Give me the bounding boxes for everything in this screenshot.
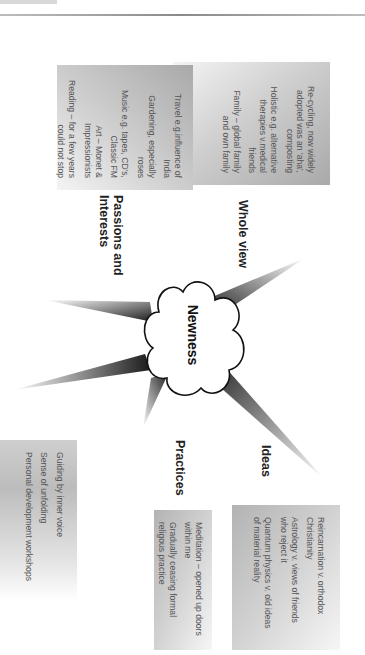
ideas-item: Reincarnation v. orthodox Christianity: [305, 517, 326, 638]
practices-box: Meditation – opened up doors within me G…: [154, 510, 212, 650]
whole-view-item: Re-cycling, now widely adopted was an 'a…: [284, 74, 316, 173]
passions-item: Art – Monet & Impressionists: [82, 77, 103, 178]
whole-view-label: Whole view: [236, 200, 250, 268]
spoke-practices: [143, 372, 169, 428]
practices-label: Practices: [173, 440, 187, 496]
self-item: Guiding by inner voice: [54, 452, 65, 588]
whole-view-item: Family – global family and own family: [220, 74, 241, 173]
self-box: Guiding by inner voice Sense of unfoldin…: [0, 440, 77, 600]
passions-box: Travel e.g.influence of India Gardening,…: [57, 65, 193, 190]
passions-item: Reading – for a few years could not stop: [56, 77, 77, 178]
spoke-passions: [45, 300, 153, 322]
passions-item: Travel e.g.influence of India: [162, 77, 183, 178]
ideas-item: Quantum physics v. old ideas of material…: [252, 517, 273, 638]
self-item: Personal development workshops: [23, 452, 34, 588]
mind-map-page: Newness Re-cycling, now widely adopted w…: [0, 0, 365, 655]
passions-label: Passions and Interests: [96, 195, 125, 285]
practices-item: Meditation – opened up doors within me: [183, 522, 204, 638]
practices-item: Gradually ceasing formal religous practi…: [156, 522, 177, 638]
whole-view-box: Re-cycling, now widely adopted was an 'a…: [173, 62, 330, 185]
ideas-box: Reincarnation v. orthodox Christianity A…: [232, 505, 340, 650]
whole-view-item: Holistic e.g. alternative therapies v.me…: [247, 74, 279, 173]
passions-item: Gardening, especially roses: [135, 77, 156, 178]
central-node-label: Newness: [185, 295, 201, 375]
ideas-label: Ideas: [259, 445, 273, 477]
spoke-self: [13, 354, 151, 390]
ideas-item: Astrology v. views of friends who reject…: [278, 517, 299, 638]
self-item: Sense of unfolding: [39, 452, 50, 588]
passions-item: Music e.g. tapes, CD's, Classic FM: [109, 77, 130, 178]
